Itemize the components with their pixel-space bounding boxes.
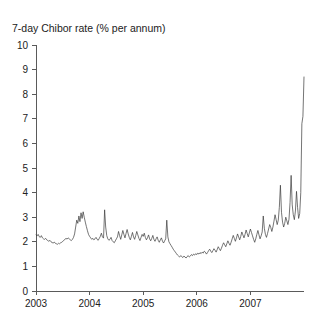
y-tick-label: 7 <box>22 113 28 124</box>
data-series-group <box>36 77 304 258</box>
y-tick-label: 8 <box>22 89 28 100</box>
x-tick-label: 2007 <box>239 298 262 309</box>
y-tick-label: 10 <box>17 40 29 51</box>
x-tick-label: 2004 <box>78 298 101 309</box>
series-line <box>36 77 304 258</box>
x-tick-label: 2006 <box>186 298 209 309</box>
x-axis-group: 20032004200520062007 <box>25 291 304 309</box>
y-tick-label: 0 <box>22 286 28 297</box>
y-tick-group: 012345678910 <box>17 40 36 297</box>
y-tick-label: 6 <box>22 138 28 149</box>
x-tick-label: 2003 <box>25 298 48 309</box>
y-tick-label: 2 <box>22 236 28 247</box>
y-tick-label: 1 <box>22 261 28 272</box>
y-tick-label: 3 <box>22 212 28 223</box>
y-tick-label: 4 <box>22 187 28 198</box>
x-tick-label: 2005 <box>132 298 155 309</box>
y-tick-label: 9 <box>22 64 28 75</box>
chart-container: 7-day Chibor rate (% per annum) 01234567… <box>0 0 314 326</box>
y-axis-group: 012345678910 <box>17 40 36 297</box>
y-tick-label: 5 <box>22 163 28 174</box>
x-tick-group: 20032004200520062007 <box>25 291 262 309</box>
line-chart-plot: 012345678910 20032004200520062007 <box>0 0 314 326</box>
